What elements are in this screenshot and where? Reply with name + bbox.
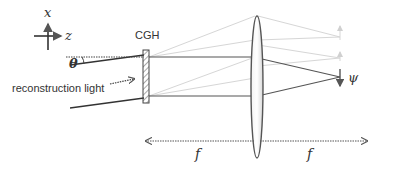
optical-diagram: x z CGH θ reconstruction light ψ f f — [0, 0, 395, 169]
lens — [251, 16, 263, 158]
z-axis-label: z — [65, 28, 72, 43]
output-field-label: ψ — [348, 70, 358, 85]
focal-length-left-label: f — [195, 146, 200, 162]
reconstruction-light-label: reconstruction light — [12, 82, 104, 94]
cgh-plate — [143, 50, 149, 103]
cgh-label: CGH — [135, 29, 159, 41]
light-direction-arrow — [110, 79, 134, 84]
focal-length-right-label: f — [307, 146, 312, 162]
angle-label: θ — [69, 56, 78, 71]
coordinate-axes — [34, 24, 61, 50]
main-rays — [149, 57, 340, 96]
x-axis-label: x — [44, 5, 51, 20]
